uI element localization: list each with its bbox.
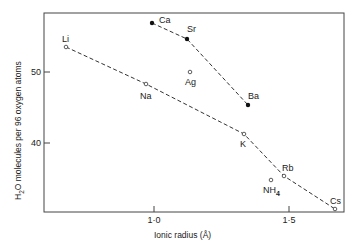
y-tick-label-50: 50 xyxy=(31,67,41,77)
label-ag: Ag xyxy=(185,77,196,87)
label-k: K xyxy=(240,139,246,149)
point-nh4 xyxy=(269,178,273,182)
label-na: Na xyxy=(140,91,152,101)
svg-text:H2O molecules per 96 oxygen at: H2O molecules per 96 oxygen atoms xyxy=(13,61,25,200)
point-rb xyxy=(282,174,286,178)
x-tick-label-1.5: 1·5 xyxy=(282,215,295,225)
x-axis-label: Ionic radius (Å) xyxy=(154,230,211,240)
point-cs xyxy=(333,207,337,211)
monovalent-trend-line xyxy=(66,47,335,209)
label-rb: Rb xyxy=(282,163,294,173)
divalent-trend-line xyxy=(152,23,248,105)
point-k xyxy=(242,132,246,136)
y-tick-label-40: 40 xyxy=(31,138,41,148)
point-li xyxy=(64,45,68,49)
point-ag xyxy=(188,70,192,74)
point-sr xyxy=(185,37,189,41)
label-sr: Sr xyxy=(187,24,196,34)
label-ba: Ba xyxy=(248,91,259,101)
y-axis-label: H2O molecules per 96 oxygen atoms xyxy=(13,61,25,200)
chart: 50 40 1·0 1·5 Ionic radius (Å) H2O molec… xyxy=(0,0,357,248)
x-tick-label-1.0: 1·0 xyxy=(147,215,160,225)
point-ba xyxy=(246,103,250,107)
point-ca xyxy=(150,21,154,25)
label-ca: Ca xyxy=(159,15,171,25)
label-cs: Cs xyxy=(330,196,341,206)
label-li: Li xyxy=(62,34,69,44)
plot-frame xyxy=(44,13,344,212)
point-na xyxy=(144,82,148,86)
label-nh4: NH4 xyxy=(263,185,280,197)
